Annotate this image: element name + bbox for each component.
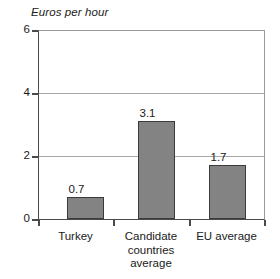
- x-tick-mark-2: [189, 220, 191, 226]
- x-category-label-eu-average: EU average: [189, 230, 264, 244]
- x-tick-mark-3: [264, 220, 266, 226]
- y-tick-label-2: 2: [4, 150, 30, 162]
- x-category-line: Candidate: [113, 230, 189, 244]
- x-tick-mark-1: [113, 220, 115, 226]
- bar-eu-average: [209, 165, 246, 219]
- y-axis-labels: 6 4 2 0: [0, 0, 30, 279]
- bar-candidate-countries-average: [138, 121, 175, 219]
- y-tick-label-0: 0: [4, 213, 30, 225]
- gridline-4: [39, 93, 264, 94]
- bar-chart-figure: Euros per hour 6 4 2 0 0.7 3.1 1.7 Turke…: [0, 0, 280, 279]
- bar-value-turkey: 0.7: [48, 183, 105, 195]
- x-category-line: average: [113, 257, 189, 271]
- y-tick-label-4: 4: [4, 87, 30, 99]
- x-category-line: Turkey: [38, 230, 113, 244]
- bar-value-eu-average: 1.7: [190, 151, 247, 163]
- bar-turkey: [67, 197, 104, 219]
- x-category-line: countries: [113, 244, 189, 258]
- x-category-label-turkey: Turkey: [38, 230, 113, 244]
- chart-title: Euros per hour: [31, 6, 108, 18]
- x-tick-mark-0: [38, 220, 40, 226]
- x-category-line: EU average: [189, 230, 264, 244]
- y-tick-label-6: 6: [4, 24, 30, 36]
- x-category-label-candidate-countries-average: Candidate countries average: [113, 230, 189, 271]
- bar-value-candidate-countries-average: 3.1: [119, 107, 176, 119]
